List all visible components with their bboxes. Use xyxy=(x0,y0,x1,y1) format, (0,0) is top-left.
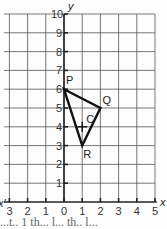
y-tick-label: 1 xyxy=(56,177,62,189)
y-tick-label: 8 xyxy=(56,46,62,58)
label-r: R xyxy=(83,148,91,160)
y-tick-label: 5 xyxy=(56,102,62,114)
label-q: Q xyxy=(102,94,111,106)
y-tick-label: 2 xyxy=(56,158,62,170)
label-c: C xyxy=(86,113,94,125)
x-axis-label: x xyxy=(159,196,166,208)
coordinate-grid: 32101234512345678910 P Q R C y x x' xyxy=(0,0,167,229)
y-tick-label: 3 xyxy=(56,140,62,152)
caption-fragment: ...t.. 1 th... l... th.. l... xyxy=(0,215,167,229)
y-tick-label: 9 xyxy=(56,27,62,39)
label-p: P xyxy=(66,74,73,86)
y-tick-label: 7 xyxy=(56,64,62,76)
y-axis-label: y xyxy=(67,0,75,12)
y-tick-label: 4 xyxy=(56,121,62,133)
x-axis-neg-label: x' xyxy=(0,197,7,209)
y-tick-label: 6 xyxy=(56,83,62,95)
y-tick-label: 10 xyxy=(51,8,63,20)
